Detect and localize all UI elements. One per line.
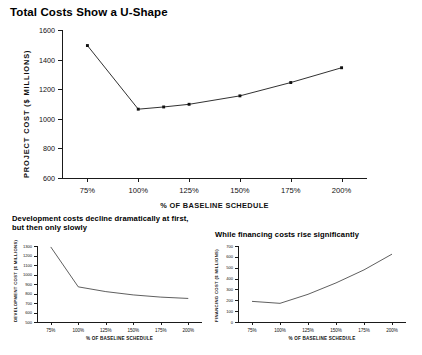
data-point-marker <box>162 106 165 109</box>
y-axis-tick-label: 400 <box>217 276 233 281</box>
x-axis-tick-label: 200% <box>379 328 405 333</box>
y-axis-tick-label: 900 <box>16 282 32 287</box>
x-axis-tick <box>308 322 309 325</box>
chart-total-cost: 600800100012001400160075%100%125%150%175… <box>62 30 367 178</box>
x-axis-tick-label: 175% <box>271 186 311 195</box>
data-point-marker <box>340 66 343 69</box>
x-axis-tick-label: 150% <box>323 328 349 333</box>
x-axis-line <box>238 322 406 323</box>
right-chart-title: While financing costs rise significantly <box>215 230 410 239</box>
x-axis-tick <box>364 322 365 325</box>
x-axis-tick-label: 100% <box>267 328 293 333</box>
y-axis-tick-label: 100 <box>217 309 233 314</box>
x-axis-tick <box>51 322 52 325</box>
x-axis-tick-label: 75% <box>67 186 107 195</box>
x-axis-tick-label: 75% <box>239 328 265 333</box>
x-axis-title: % OF BASELINE SCHEDULE <box>86 336 153 341</box>
y-axis-tick-label: 1100 <box>16 263 32 268</box>
x-axis-tick <box>133 322 134 325</box>
x-axis-tick-label: 100% <box>65 328 91 333</box>
x-axis-tick-label: 125% <box>295 328 321 333</box>
x-axis-tick-label: 175% <box>351 328 377 333</box>
y-axis-tick-label: 800 <box>29 144 55 153</box>
y-axis-title: PROJECT COST ($ MILLIONS) <box>22 50 31 178</box>
x-axis-tick <box>106 322 107 325</box>
x-axis-tick <box>336 322 337 325</box>
x-axis-title: % OF BASELINE SCHEDULE <box>288 336 355 341</box>
y-axis-tick-label: 1600 <box>29 26 55 35</box>
x-axis-tick-label: 150% <box>220 186 260 195</box>
y-axis-tick-label: 700 <box>16 301 32 306</box>
x-axis-tick <box>252 322 253 325</box>
y-axis-tick <box>235 322 238 323</box>
y-axis-title: DEVELOPMENT COST ($ MILLIONS) <box>13 240 18 322</box>
y-axis-tick-label: 1200 <box>29 85 55 94</box>
data-point-marker <box>86 44 89 47</box>
x-axis-tick <box>161 322 162 325</box>
y-axis-tick-label: 600 <box>16 310 32 315</box>
y-axis-tick-label: 600 <box>29 174 55 183</box>
series-layer <box>62 30 367 178</box>
y-axis-tick <box>58 178 62 179</box>
x-axis-tick-label: 200% <box>175 328 201 333</box>
x-axis-tick-label: 75% <box>38 328 64 333</box>
x-axis-tick <box>392 322 393 325</box>
left-axes: 500600700800900100011001200130075%100%12… <box>37 246 202 322</box>
y-axis-tick-label: 500 <box>16 320 32 325</box>
series-layer <box>238 246 406 322</box>
y-axis-tick-label: 700 <box>217 244 233 249</box>
x-axis-tick <box>291 178 292 182</box>
chart-financing-cost: 010020030040050060070075%100%125%150%175… <box>238 246 406 322</box>
y-axis-tick-label: 1300 <box>16 244 32 249</box>
series-line <box>51 247 189 298</box>
x-axis-tick-label: 125% <box>169 186 209 195</box>
x-axis-tick <box>189 178 190 182</box>
x-axis-tick-label: 175% <box>148 328 174 333</box>
x-axis-tick-label: 200% <box>322 186 362 195</box>
x-axis-tick-label: 100% <box>118 186 158 195</box>
right-axes: 010020030040050060070075%100%125%150%175… <box>238 246 406 322</box>
data-point-marker <box>188 103 191 106</box>
y-axis-tick-label: 200 <box>217 298 233 303</box>
y-axis-tick-label: 1400 <box>29 56 55 65</box>
x-axis-title: % OF BASELINE SCHEDULE <box>160 201 269 210</box>
x-axis-line <box>62 178 367 179</box>
series-line <box>252 254 392 303</box>
y-axis-tick-label: 300 <box>217 287 233 292</box>
left-chart-title: Development costs decline dramatically a… <box>12 214 202 233</box>
y-axis-tick-label: 1200 <box>16 253 32 258</box>
series-layer <box>37 246 202 322</box>
x-axis-tick <box>138 178 139 182</box>
series-line <box>87 46 341 110</box>
figure-page: Total Costs Show a U-Shape 6008001000120… <box>0 0 422 355</box>
data-point-marker <box>137 108 140 111</box>
x-axis-tick-label: 125% <box>93 328 119 333</box>
data-point-marker <box>238 94 241 97</box>
x-axis-tick <box>342 178 343 182</box>
x-axis-tick <box>87 178 88 182</box>
x-axis-tick <box>240 178 241 182</box>
y-axis-tick <box>34 322 37 323</box>
y-axis-tick-label: 0 <box>217 320 233 325</box>
x-axis-line <box>37 322 202 323</box>
data-point-marker <box>289 81 292 84</box>
y-axis-title: FINANCING COST ($ MILLIONS) <box>214 249 219 322</box>
main-axes: 600800100012001400160075%100%125%150%175… <box>62 30 367 178</box>
x-axis-tick <box>188 322 189 325</box>
chart-development-cost: 500600700800900100011001200130075%100%12… <box>37 246 202 322</box>
y-axis-tick-label: 800 <box>16 291 32 296</box>
y-axis-tick-label: 1000 <box>29 115 55 124</box>
x-axis-tick-label: 150% <box>120 328 146 333</box>
y-axis-tick-label: 1000 <box>16 272 32 277</box>
x-axis-tick <box>280 322 281 325</box>
y-axis-tick-label: 600 <box>217 254 233 259</box>
x-axis-tick <box>78 322 79 325</box>
main-chart-title: Total Costs Show a U-Shape <box>10 6 168 18</box>
y-axis-tick-label: 500 <box>217 265 233 270</box>
